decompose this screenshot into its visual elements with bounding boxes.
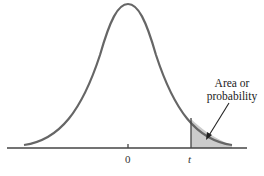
annotation-line-2: probability [200, 90, 264, 103]
zero-label: 0 [125, 153, 131, 165]
annotation-arrow-shaft [208, 103, 229, 137]
t-label: t [188, 153, 191, 165]
density-curve [24, 4, 232, 145]
annotation-line-1: Area or [200, 77, 264, 90]
area-annotation: Area or probability [200, 77, 264, 103]
